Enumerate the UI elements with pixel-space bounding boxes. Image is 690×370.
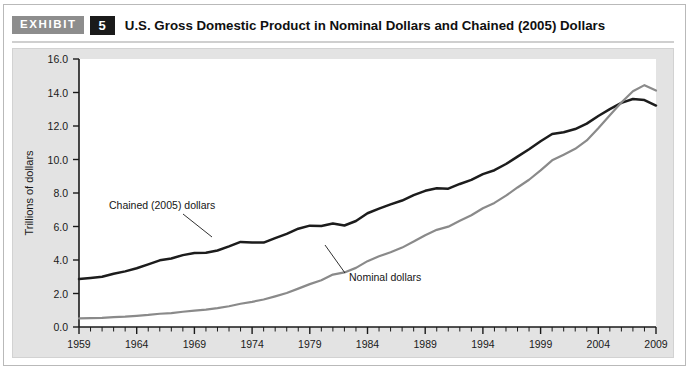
exhibit-number-badge: 5 (90, 16, 115, 35)
y-tick-label: 16.0 (48, 53, 69, 65)
y-axis-tick-labels: 0.02.04.06.08.010.012.014.016.0 (48, 53, 69, 333)
y-tick-label: 2.0 (53, 288, 68, 300)
exhibit-header: EXHIBIT 5 U.S. Gross Domestic Product in… (12, 13, 674, 37)
x-axis-ticks (79, 327, 656, 334)
nominal-series-annotation: Nominal dollars (349, 271, 421, 283)
x-tick-label: 1974 (240, 338, 264, 350)
header-divider (12, 41, 674, 43)
y-tick-label: 8.0 (53, 187, 68, 199)
x-tick-label: 1999 (529, 338, 553, 350)
gdp-line-chart: 0.02.04.06.08.010.012.014.016.0 19591964… (13, 49, 673, 357)
y-tick-label: 10.0 (48, 154, 69, 166)
x-tick-label: 1964 (125, 338, 149, 350)
x-tick-label: 1989 (414, 338, 438, 350)
y-axis-title: Trillions of dollars (23, 150, 35, 236)
x-tick-label: 1984 (356, 338, 380, 350)
y-tick-label: 4.0 (53, 254, 68, 266)
y-tick-label: 12.0 (48, 120, 69, 132)
exhibit-title: U.S. Gross Domestic Product in Nominal D… (125, 18, 605, 33)
x-axis-tick-labels: 1959196419691974197919841989199419992004… (67, 338, 668, 350)
y-tick-label: 6.0 (53, 221, 68, 233)
exhibit-figure: EXHIBIT 5 U.S. Gross Domestic Product in… (0, 0, 690, 370)
y-axis-ticks (73, 59, 79, 327)
y-tick-label: 14.0 (48, 87, 69, 99)
plot-area-background (79, 59, 656, 327)
x-tick-label: 1979 (298, 338, 322, 350)
x-tick-label: 1994 (471, 338, 495, 350)
exhibit-tag-badge: EXHIBIT (12, 16, 84, 34)
y-tick-label: 0.0 (53, 321, 68, 333)
chained-series-annotation: Chained (2005) dollars (109, 199, 215, 211)
x-tick-label: 1959 (67, 338, 91, 350)
chart-panel: 0.02.04.06.08.010.012.014.016.0 19591964… (12, 48, 674, 358)
x-tick-label: 2004 (587, 338, 611, 350)
x-tick-label: 1969 (183, 338, 207, 350)
x-tick-label: 2009 (644, 338, 668, 350)
